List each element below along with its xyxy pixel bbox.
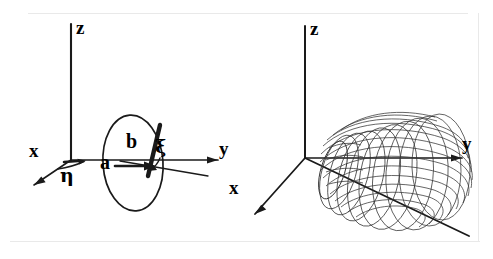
panel-right-torus-surface: z y x (247, 0, 493, 259)
left-panel-graphics (0, 0, 247, 259)
left-vector-label-a: a (100, 152, 110, 172)
left-angle-label-xi: ξ (155, 137, 166, 156)
right-axis-label-x: x (229, 178, 239, 197)
right-axis-label-y: y (462, 134, 472, 153)
torus-meridian (356, 206, 425, 227)
panel-left-vector-definition: z y x a b η ξ (0, 0, 247, 259)
figure-root: z y x a b η ξ (0, 0, 493, 259)
left-axis-label-z: z (76, 18, 84, 37)
left-vector-label-b: b (126, 131, 137, 151)
torus-meridian (321, 147, 472, 188)
left-angle-label-eta: η (60, 166, 74, 185)
right-panel-graphics (247, 0, 493, 259)
right-axis-label-z: z (310, 19, 318, 38)
left-y-axis-arrowhead (207, 156, 218, 163)
left-plane-trace (120, 161, 208, 176)
left-axis-label-x: x (29, 141, 39, 160)
left-axis-label-y: y (219, 139, 229, 158)
right-x-axis (255, 158, 305, 214)
right-x-axis-arrowhead (255, 205, 266, 214)
left-origin-marker (64, 161, 78, 162)
